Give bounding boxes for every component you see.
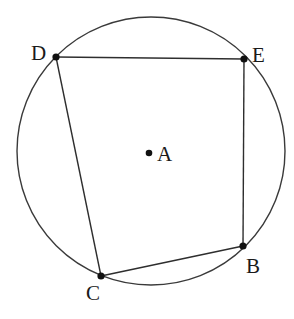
- label-D: D: [31, 41, 46, 65]
- edge-BC: [101, 246, 243, 276]
- point-D: [52, 53, 59, 60]
- label-B: B: [246, 254, 260, 278]
- center-point-A: [146, 150, 153, 157]
- label-C: C: [86, 281, 100, 305]
- point-C: [97, 272, 104, 279]
- point-B: [239, 242, 246, 249]
- point-E: [240, 55, 247, 62]
- vertex-points: [52, 53, 247, 279]
- quadrilateral-edges: [56, 57, 244, 276]
- edge-EB: [243, 59, 244, 246]
- edge-CD: [56, 57, 101, 276]
- label-E: E: [252, 43, 265, 67]
- edge-DE: [56, 57, 244, 59]
- label-A: A: [157, 142, 173, 166]
- inscribed-quadrilateral-diagram: D E B C A: [0, 0, 294, 319]
